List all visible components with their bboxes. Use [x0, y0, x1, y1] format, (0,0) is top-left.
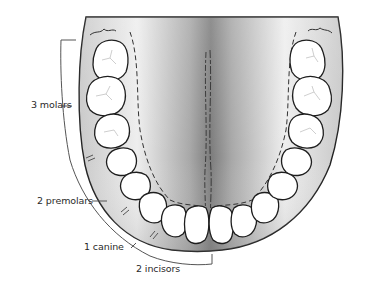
label-canine: 1 canine	[84, 241, 124, 252]
label-molars: 3 molars	[31, 99, 72, 110]
label-incisors: 2 incisors	[136, 263, 180, 274]
dental-arch-diagram: 3 molars 2 premolars 1 canine 2 incisors	[0, 0, 366, 291]
dental-arch-illustration	[0, 0, 366, 291]
label-premolars: 2 premolars	[37, 195, 93, 206]
